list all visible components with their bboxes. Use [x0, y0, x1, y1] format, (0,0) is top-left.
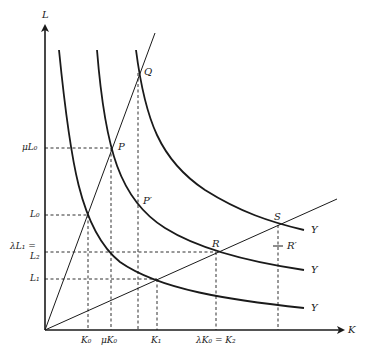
tick-k1: K₁: [151, 336, 161, 345]
point-p-label: P: [118, 142, 125, 152]
point-r-prime-label: R′: [287, 241, 297, 251]
point-p-prime-label: P′: [143, 196, 152, 206]
l-axis-label: L: [42, 10, 49, 20]
isoquant-2: [97, 50, 304, 270]
tick-l2: L₂: [30, 252, 40, 261]
tick-k0: K₀: [81, 336, 91, 345]
tick-mu-l0: μL₀: [22, 143, 37, 152]
tick-lambda-k0-k2: λK₀ = K₂: [196, 336, 236, 345]
isoquant-3-label: Y: [311, 225, 318, 235]
tick-l0: L₀: [30, 210, 40, 219]
tick-mu-k0: μK₀: [101, 336, 117, 345]
tick-lambda-l1: λL₁ =: [10, 242, 36, 251]
k-axis-label: K: [348, 325, 355, 335]
isoquant-3: [136, 50, 304, 230]
point-s-label: S: [274, 212, 281, 222]
isoquant-2-label: Y: [311, 265, 318, 275]
point-q-label: Q: [144, 67, 152, 77]
isoquant-1-label: Y: [311, 303, 318, 313]
tick-l1: L₁: [30, 274, 40, 283]
point-r-label: R: [212, 239, 220, 249]
